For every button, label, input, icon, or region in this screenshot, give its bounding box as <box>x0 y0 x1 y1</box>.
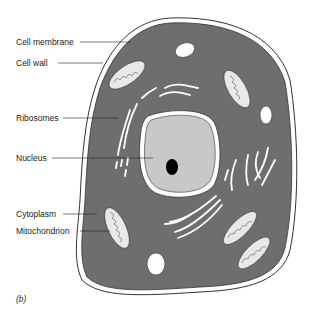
nucleolus <box>166 159 178 175</box>
label-cell-wall: Cell wall <box>16 58 48 68</box>
figure-caption: (b) <box>16 294 26 304</box>
label-cell-membrane: Cell membrane <box>16 37 74 47</box>
vacuole <box>260 106 272 124</box>
vacuole <box>147 253 165 275</box>
label-ribosomes: Ribosomes <box>16 113 59 123</box>
label-mitochondrion: Mitochondrion <box>16 226 69 236</box>
label-nucleus: Nucleus <box>16 153 47 163</box>
nucleus <box>140 111 220 198</box>
label-cytoplasm: Cytoplasm <box>16 209 56 219</box>
